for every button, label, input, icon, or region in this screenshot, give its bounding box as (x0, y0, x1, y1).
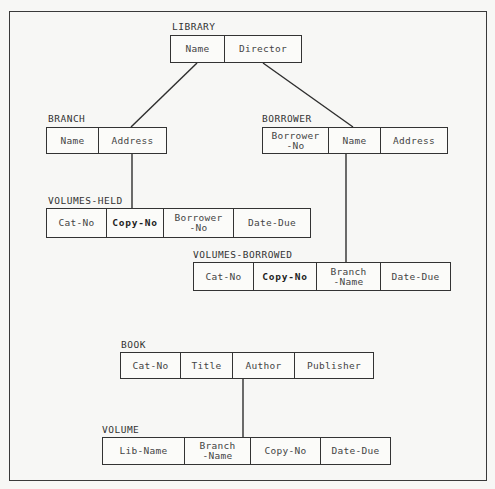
attr-volumes-borrowed-branch-name: Branch -Name (317, 263, 381, 290)
attr-borrower-address: Address (381, 128, 447, 153)
attr-volumes-held-date-due: Date-Due (234, 209, 310, 237)
relation-name-volume: VOLUME (102, 425, 139, 435)
attr-book-cat-no: Cat-No (121, 353, 181, 378)
relation-volumes-borrowed: Cat-No Copy-No Branch -Name Date-Due (193, 262, 451, 291)
relation-borrower: Borrower -No Name Address (262, 127, 448, 154)
attr-volume-date-due: Date-Due (321, 438, 390, 464)
attr-volumes-held-borrower-no: Borrower -No (164, 209, 234, 237)
attr-borrower-borrower-no: Borrower -No (263, 128, 329, 153)
relation-name-branch: BRANCH (48, 114, 85, 124)
attr-volumes-held-copy-no: Copy-No (107, 209, 164, 237)
relation-name-volumes-held: VOLUMES-HELD (48, 196, 123, 206)
relation-volumes-held: Cat-No Copy-No Borrower -No Date-Due (46, 208, 311, 238)
relation-name-volumes-borrowed: VOLUMES-BORROWED (193, 250, 293, 260)
attr-branch-address: Address (99, 128, 166, 153)
relation-library: Name Director (170, 35, 302, 63)
relation-book: Cat-No Title Author Publisher (120, 352, 374, 379)
relation-name-book: BOOK (121, 340, 146, 350)
attr-book-author: Author (233, 353, 295, 378)
relation-name-library: LIBRARY (172, 22, 216, 32)
attr-library-name: Name (171, 36, 225, 62)
attr-volume-lib-name: Lib-Name (103, 438, 185, 464)
attr-volume-branch-name: Branch -Name (185, 438, 251, 464)
relation-volume: Lib-Name Branch -Name Copy-No Date-Due (102, 437, 391, 465)
attr-volumes-held-cat-no: Cat-No (47, 209, 107, 237)
attr-volumes-borrowed-date-due: Date-Due (381, 263, 450, 290)
attr-branch-name: Name (47, 128, 99, 153)
relation-branch: Name Address (46, 127, 167, 154)
attr-volumes-borrowed-copy-no: Copy-No (254, 263, 317, 290)
attr-volumes-borrowed-cat-no: Cat-No (194, 263, 254, 290)
attr-volume-copy-no: Copy-No (251, 438, 321, 464)
attr-library-director: Director (225, 36, 301, 62)
edge-library-branch (131, 63, 197, 127)
connector-lines (0, 0, 495, 489)
attr-book-publisher: Publisher (295, 353, 373, 378)
attr-book-title: Title (181, 353, 233, 378)
relation-name-borrower: BORROWER (262, 114, 312, 124)
attr-borrower-name: Name (329, 128, 381, 153)
